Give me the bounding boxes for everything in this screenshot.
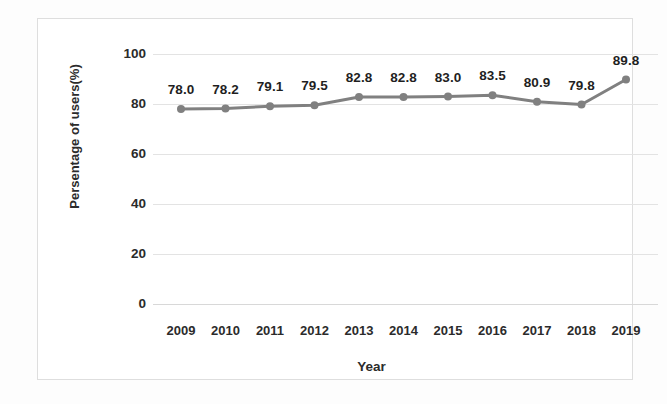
y-axis-title: Persentage of users(%): [67, 52, 82, 222]
data-point-2013: [355, 93, 363, 101]
y-tick-label-40: 40: [106, 197, 146, 211]
data-point-2011: [266, 102, 274, 110]
y-tick-label-0: 0: [106, 297, 146, 311]
data-point-2010: [222, 105, 230, 113]
data-point-2009: [177, 105, 185, 113]
data-point-2018: [578, 101, 586, 109]
data-point-2015: [444, 93, 452, 101]
plot-area: 78.078.279.179.582.882.883.083.580.979.8…: [153, 54, 658, 304]
data-point-2012: [311, 101, 319, 109]
data-label-2019: 89.8: [596, 54, 656, 68]
chart-frame: Persentage of users(%) 020406080100 78.0…: [37, 18, 633, 380]
gridline-0: [153, 304, 658, 305]
data-point-2017: [533, 98, 541, 106]
y-tick-label-60: 60: [106, 147, 146, 161]
y-axis-tick-labels: 020406080100: [98, 54, 146, 304]
y-tick-label-100: 100: [106, 47, 146, 61]
y-tick-label-80: 80: [106, 97, 146, 111]
y-tick-label-20: 20: [106, 247, 146, 261]
data-label-2018: 79.8: [552, 79, 612, 93]
data-point-2016: [489, 91, 497, 99]
x-axis-tick-labels: 2009201020112012201320142015201620172018…: [153, 324, 658, 346]
x-tick-label-2019: 2019: [598, 324, 654, 337]
data-point-2014: [400, 93, 408, 101]
x-axis-title: Year: [38, 359, 667, 374]
data-point-2019: [622, 76, 630, 84]
